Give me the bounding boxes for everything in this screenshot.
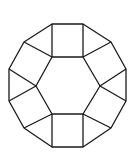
edge-line — [83, 42, 111, 57]
inner-hexagon — [36, 57, 100, 114]
dodecagon-diagram — [0, 0, 133, 155]
edge-line — [24, 42, 52, 57]
edge-line — [24, 114, 52, 128]
edge-line — [100, 69, 126, 86]
diagram-svg — [0, 0, 133, 155]
connecting-edges — [9, 24, 126, 147]
outer-dodecagon — [9, 24, 126, 147]
edge-line — [83, 114, 111, 128]
edge-line — [100, 86, 126, 101]
edge-line — [9, 86, 36, 101]
edge-line — [9, 69, 36, 86]
